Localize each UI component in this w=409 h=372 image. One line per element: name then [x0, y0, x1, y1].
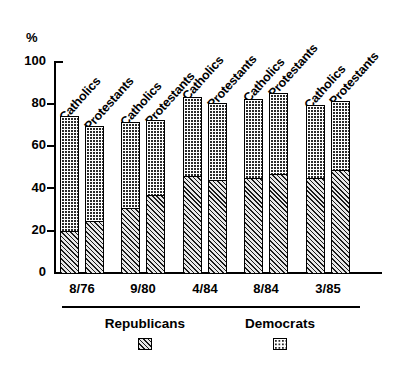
legend-divider-rule: [62, 306, 360, 308]
bar-3-85-protestants: [331, 101, 350, 273]
x-category-label-3-85: 3/85: [298, 281, 358, 296]
legend-swatch-republicans-icon: [138, 338, 152, 350]
legend-label-democrats: Democrats: [205, 316, 355, 332]
bar-8-84-protestants: [269, 93, 288, 273]
bar-segment-republicans: [183, 176, 202, 274]
bar-9-80-catholics: [121, 122, 140, 273]
bar-8-84-catholics: [244, 99, 263, 273]
bar-segment-republicans: [60, 231, 79, 274]
bar-9-80-protestants: [146, 120, 165, 273]
legend-swatch-democrats-icon: [273, 338, 287, 350]
bar-segment-republicans: [121, 208, 140, 274]
x-category-label-8-84: 8/84: [236, 281, 296, 296]
bar-chart: % 100 80 60 40 20 0 Catholics Protestant…: [0, 0, 409, 372]
bar-segment-republicans: [306, 178, 325, 274]
bar-segment-republicans: [269, 174, 288, 274]
bar-8-76-protestants: [85, 126, 104, 273]
bar-segment-republicans: [208, 180, 227, 274]
bar-segment-republicans: [146, 195, 165, 274]
bar-3-85-catholics: [306, 105, 325, 273]
legend-entry-republicans: Republicans: [70, 316, 220, 354]
bar-4-84-catholics: [183, 97, 202, 273]
x-category-label-8-76: 8/76: [52, 281, 112, 296]
legend-label-republicans: Republicans: [70, 316, 220, 332]
bar-segment-republicans: [244, 178, 263, 274]
bar-segment-republicans: [85, 221, 104, 274]
bar-8-76-catholics: [60, 116, 79, 273]
legend-entry-democrats: Democrats: [205, 316, 355, 354]
bar-segment-republicans: [331, 170, 350, 274]
x-category-label-4-84: 4/84: [175, 281, 235, 296]
x-category-label-9-80: 9/80: [113, 281, 173, 296]
bar-4-84-protestants: [208, 103, 227, 273]
